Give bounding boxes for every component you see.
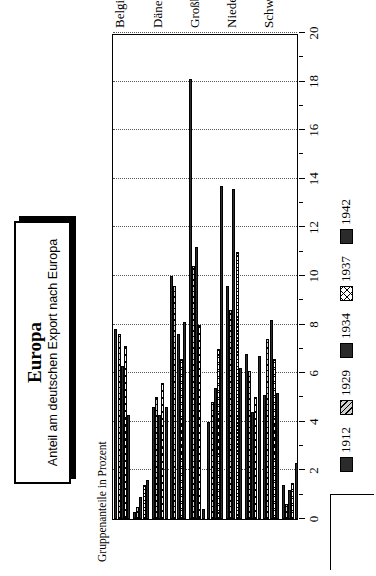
- axis-tick-minor: [299, 154, 303, 155]
- category-label: Schweiz: [261, 0, 277, 28]
- axis-tick-label: 18: [306, 75, 322, 88]
- legend-label: 1934: [338, 313, 354, 339]
- bar: [202, 509, 205, 519]
- legend-swatch: [340, 400, 353, 415]
- gridline: [113, 226, 297, 227]
- legend-label: 1942: [338, 199, 354, 225]
- legend-item[interactable]: 1934: [338, 313, 354, 358]
- chart-title: Europa: [25, 322, 45, 383]
- axis-tick-label: 14: [306, 172, 322, 185]
- legend-swatch: [340, 286, 353, 301]
- category-label: Belgien: [112, 0, 128, 28]
- legend-swatch: [340, 229, 353, 244]
- title-block-frame: Europa Anteil am deutschen Export nach E…: [14, 221, 71, 484]
- axis-tick-minor: [299, 348, 303, 349]
- axis-tick-minor: [299, 105, 303, 106]
- axis-tick-major: [299, 469, 305, 470]
- bar: [127, 415, 130, 519]
- category-label: Niederlande: [224, 0, 240, 28]
- legend-item[interactable]: 1912: [338, 427, 354, 472]
- bar: [165, 407, 168, 519]
- bar: [258, 356, 261, 519]
- axis-title-y: Gruppenanteile in Prozent: [96, 362, 108, 562]
- category-label: Dänemark: [150, 0, 166, 28]
- gridline: [113, 81, 297, 82]
- axis-tick-minor: [299, 397, 303, 398]
- bar: [220, 186, 223, 519]
- bar: [295, 463, 298, 519]
- axis-tick-major: [299, 275, 305, 276]
- bar: [146, 480, 149, 519]
- axis-tick-major: [299, 32, 305, 33]
- axis-tick-label: 16: [306, 124, 322, 137]
- axis-tick-label: 0: [306, 516, 322, 523]
- axis-tick-minor: [299, 202, 303, 203]
- axis-tick-label: 2: [306, 467, 322, 474]
- gridline: [113, 32, 297, 33]
- rotated-figure: Europa Anteil am deutschen Export nach E…: [0, 0, 376, 576]
- axis-tick-major: [299, 518, 305, 519]
- axis-tick-major: [299, 178, 305, 179]
- frame-fragment: [330, 494, 374, 570]
- axis-tick-label: 12: [306, 221, 322, 234]
- gridline: [113, 275, 297, 276]
- category-label: Großbritannien: [187, 0, 203, 28]
- axis-tick-major: [299, 129, 305, 130]
- axis-tick-minor: [299, 445, 303, 446]
- bar: [198, 325, 201, 519]
- plot-area: 02468101214161820: [112, 34, 298, 520]
- legend: 19121929193419371942: [338, 199, 354, 472]
- axis-tick-label: 4: [306, 419, 322, 426]
- legend-item[interactable]: 1942: [338, 199, 354, 244]
- chart-page: Europa Anteil am deutschen Export nach E…: [0, 0, 376, 576]
- axis-tick-major: [299, 372, 305, 373]
- axis-tick-major: [299, 226, 305, 227]
- legend-swatch: [340, 343, 353, 358]
- axis-tick-label: 10: [306, 270, 322, 283]
- legend-label: 1929: [338, 370, 354, 396]
- axis-tick-label: 8: [306, 321, 322, 328]
- bar: [239, 368, 242, 519]
- legend-swatch: [340, 457, 353, 472]
- axis-tick-label: 6: [306, 370, 322, 377]
- axis-tick-minor: [299, 251, 303, 252]
- axis-tick-minor: [299, 299, 303, 300]
- axis-tick-major: [299, 324, 305, 325]
- axis-tick-minor: [299, 56, 303, 57]
- axis-tick-major: [299, 81, 305, 82]
- legend-item[interactable]: 1929: [338, 370, 354, 415]
- bar: [276, 393, 279, 519]
- legend-item[interactable]: 1937: [338, 256, 354, 301]
- legend-label: 1912: [338, 427, 354, 453]
- chart-subtitle: Anteil am deutschen Export nach Europa: [46, 239, 60, 466]
- legend-label: 1937: [338, 256, 354, 282]
- title-block: Europa Anteil am deutschen Export nach E…: [14, 216, 76, 484]
- gridline: [113, 178, 297, 179]
- gridline: [113, 129, 297, 130]
- axis-tick-major: [299, 421, 305, 422]
- bar: [183, 322, 186, 519]
- axis-tick-label: 20: [306, 27, 322, 40]
- axis-tick-minor: [299, 494, 303, 495]
